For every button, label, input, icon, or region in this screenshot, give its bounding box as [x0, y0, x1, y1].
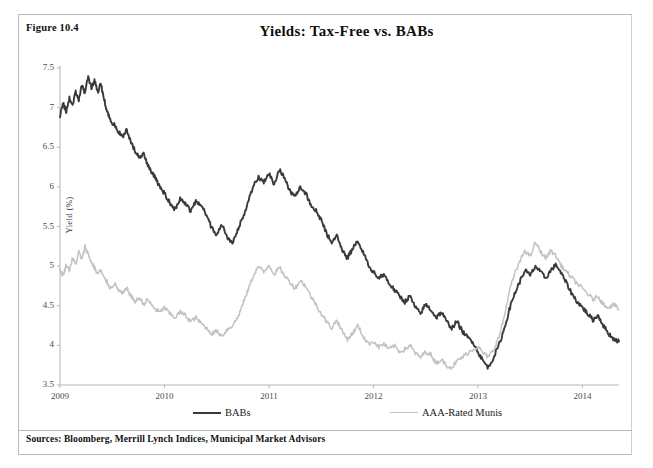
y-tick-label: 6: [28, 181, 54, 191]
x-tick-label: 2014: [562, 391, 602, 401]
legend-item-aaa-rated-munis[interactable]: AAA-Rated Munis: [390, 407, 502, 418]
legend-item-babs[interactable]: BABs: [193, 407, 251, 418]
y-tick-label: 5: [28, 260, 54, 270]
x-tick-label: 2013: [458, 391, 498, 401]
x-tick-label: 2009: [40, 391, 80, 401]
y-tick-label: 4.5: [28, 300, 54, 310]
y-tick-label: 3.5: [28, 379, 54, 389]
legend-swatch-babs: [193, 412, 221, 414]
sources-note: Sources: Bloomberg, Merrill Lynch Indice…: [26, 434, 325, 444]
y-tick-label: 4: [28, 339, 54, 349]
chart-svg: [18, 14, 632, 455]
chart-legend: BABs AAA-Rated Munis: [18, 405, 632, 425]
legend-label-aaa-rated-munis: AAA-Rated Munis: [422, 407, 502, 418]
legend-label-babs: BABs: [225, 407, 251, 418]
series-line-aaa-rated-munis: [60, 243, 619, 370]
y-tick-label: 6.5: [28, 141, 54, 151]
plot-area: Yield (%) 3.544.555.566.577.520092010201…: [18, 14, 632, 455]
x-tick-label: 2010: [144, 391, 184, 401]
sources-rule: [18, 430, 632, 431]
y-tick-label: 7.5: [28, 62, 54, 72]
y-tick-label: 5.5: [28, 221, 54, 231]
y-tick-label: 7: [28, 102, 54, 112]
legend-swatch-aaa-rated-munis: [390, 412, 418, 413]
x-tick-label: 2011: [249, 391, 289, 401]
x-tick-label: 2012: [353, 391, 393, 401]
